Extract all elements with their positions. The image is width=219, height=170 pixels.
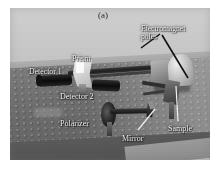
detector-1-cap xyxy=(36,75,41,85)
label-prism: Prism xyxy=(72,54,90,63)
experiment-photograph: (a) Electromagnet poles Detector 1 Prism… xyxy=(10,8,210,160)
unlabeled-table-object xyxy=(34,108,62,117)
figure-root: (a) Electromagnet poles Detector 1 Prism… xyxy=(0,0,219,170)
label-detector-1: Detector 1 xyxy=(29,67,62,76)
panel-label: (a) xyxy=(98,11,108,20)
label-mirror: Mirror xyxy=(122,134,143,143)
label-sample: Sample xyxy=(168,124,192,133)
label-electromagnet-poles: Electromagnet poles xyxy=(141,25,185,42)
polarizer-post xyxy=(107,122,112,136)
sample-holder-stem xyxy=(169,102,174,119)
detector-2-body xyxy=(92,80,120,92)
label-detector-2: Detector 2 xyxy=(60,92,94,101)
label-polarizer: Polarizer xyxy=(60,119,89,128)
